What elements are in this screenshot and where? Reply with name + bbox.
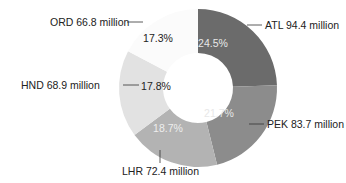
percent-ord: 17.3% [143,32,173,44]
percent-atl: 24.5% [198,37,228,49]
label-hnd: HND 68.9 million [21,79,100,91]
label-atl: ATL 94.4 million [265,19,339,31]
percent-pek: 21.7% [204,107,234,119]
label-ord: ORD 66.8 million [50,16,129,28]
label-lhr: LHR 72.4 million [122,165,199,177]
percent-lhr: 18.7% [153,122,183,134]
percent-hnd: 17.8% [141,80,171,92]
label-pek: PEK 83.7 million [267,118,344,130]
